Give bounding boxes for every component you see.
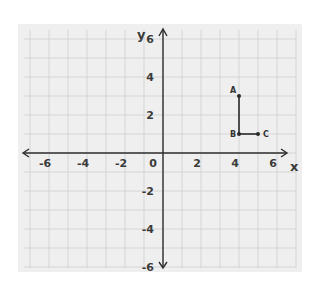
y-tick-label: -2 [142, 185, 154, 198]
x-tick-label: 2 [193, 157, 201, 170]
point-c [256, 132, 260, 136]
x-tick-label: -4 [77, 157, 90, 170]
point-b [237, 132, 241, 136]
point-label: A [230, 86, 237, 95]
x-tick-label: 4 [231, 157, 239, 170]
plot-background [18, 24, 302, 272]
point-label: C [263, 130, 269, 139]
y-tick-label: 6 [146, 33, 154, 46]
y-tick-label: -6 [142, 261, 155, 274]
point-label: B [230, 130, 236, 139]
y-tick-label: -4 [142, 223, 155, 236]
x-axis-label: x [290, 159, 299, 174]
x-tick-label: -2 [115, 157, 127, 170]
x-tick-label: -6 [39, 157, 52, 170]
y-tick-label: 4 [146, 71, 154, 84]
x-tick-label: 0 [149, 157, 157, 170]
coordinate-plane: xy -6-4-20246-6-4-2246 ABC [0, 0, 316, 289]
y-axis-label: y [137, 27, 146, 42]
point-a [237, 94, 241, 98]
y-tick-label: 2 [146, 109, 154, 122]
x-tick-label: 6 [269, 157, 277, 170]
